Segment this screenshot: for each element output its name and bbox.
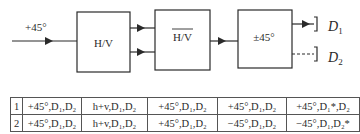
table-cell: +45°,D₁,D₂: [148, 98, 218, 115]
detector-bracket-icon: [314, 47, 317, 61]
hv-block-label: H/V: [94, 37, 113, 49]
detector-d2-path: [292, 47, 317, 61]
arrow-icon: [218, 37, 226, 45]
table-cell: −45°,D₁,D₂*: [287, 115, 360, 132]
hv-bar-block-label: H/V: [173, 31, 192, 43]
state-table: 1 +45°,D₁,D₂ h+v,D₁,D₂ +45°,D₁,D₂ +45°,D…: [10, 97, 360, 132]
detector-d2-label: D2: [327, 50, 343, 67]
arrow-icon: [137, 48, 145, 56]
table-cell: +45°,D₁,D₂: [218, 98, 287, 115]
table-row: 1 +45°,D₁,D₂ h+v,D₁,D₂ +45°,D₁,D₂ +45°,D…: [11, 98, 360, 115]
table-cell: +45°,D₁,D₂: [23, 98, 82, 115]
table-cell: h+v,D₁,D₂: [82, 98, 148, 115]
hv-outputs: [130, 24, 155, 56]
table-cell: −45°,D₁,D₂: [218, 115, 287, 132]
detector-bracket-icon: [314, 17, 317, 31]
arrow-icon: [137, 24, 145, 32]
input-label: +45°: [25, 21, 47, 33]
table-cell: +45°,D₁,D₂: [23, 115, 82, 132]
polarization-diagram: +45° H/V H/V ±45° D1 D2: [0, 0, 360, 96]
arrow-icon: [302, 20, 310, 28]
table-row: 2 +45°,D₁,D₂ h+v,D₁,D₂ +45°,D₁,D₂ −45°,D…: [11, 115, 360, 132]
table-cell: +45°,D₁,D₂: [148, 115, 218, 132]
arrow-icon: [45, 37, 53, 45]
pm45-block-label: ±45°: [253, 31, 274, 43]
detector-d1-path: [292, 17, 317, 31]
row-index: 2: [11, 115, 23, 132]
detector-d1-label: D1: [327, 19, 343, 36]
table-cell: +45°,D₁*,D₂: [287, 98, 360, 115]
input-beam: [12, 37, 77, 45]
hv-bar-output: [210, 37, 238, 45]
row-index: 1: [11, 98, 23, 115]
table-cell: h+v,D₁,D₂: [82, 115, 148, 132]
